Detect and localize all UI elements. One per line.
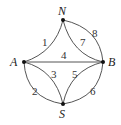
edge-4-label: 4: [61, 49, 67, 61]
edge-5-label: 5: [72, 68, 78, 80]
node-n-dot: [61, 18, 65, 22]
node-b-dot: [101, 60, 105, 64]
edge-6: [63, 62, 103, 104]
edge-2: [24, 62, 63, 104]
edge-6-label: 6: [90, 85, 96, 97]
node-n-label: N: [57, 4, 67, 18]
node-a-label: A: [9, 55, 18, 69]
node-a-dot: [22, 60, 26, 64]
edge-2-label: 2: [32, 85, 38, 97]
graph-diagram: N A B S 1 4 7 8 3 2 5 6: [0, 0, 121, 125]
node-b-label: B: [108, 55, 116, 69]
edge-3-label: 3: [51, 68, 57, 80]
edge-7-label: 7: [80, 36, 86, 48]
edge-1-label: 1: [42, 36, 48, 48]
node-s-label: S: [59, 107, 65, 121]
edge-8-label: 8: [92, 27, 98, 39]
graph-svg: N A B S 1 4 7 8 3 2 5 6: [0, 0, 121, 125]
node-s-dot: [61, 102, 65, 106]
